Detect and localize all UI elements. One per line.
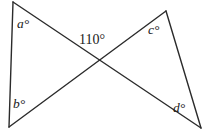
angle-label-b: b°: [13, 97, 25, 111]
left-base-to-right-apex-line: [9, 11, 166, 127]
geometry-figure: a° b° 110° c° d°: [0, 0, 204, 129]
angle-label-center-110: 110°: [79, 33, 105, 47]
angle-label-d: d°: [173, 101, 185, 115]
angle-label-a: a°: [17, 17, 29, 31]
angle-label-c: c°: [148, 23, 159, 37]
